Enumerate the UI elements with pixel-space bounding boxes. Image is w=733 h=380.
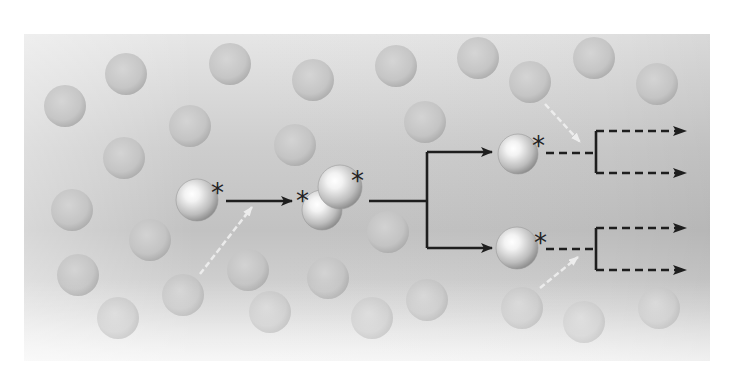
asterisk-icon: * [532,131,545,161]
asterisk-icon: * [534,228,547,258]
chain-reaction-diagram: ***** [0,0,733,380]
asterisk-icon: * [296,186,309,216]
panel-bottom-fade [24,34,710,361]
active-sphere [496,227,538,269]
asterisk-icon: * [351,166,364,196]
asterisk-icon: * [211,178,224,208]
